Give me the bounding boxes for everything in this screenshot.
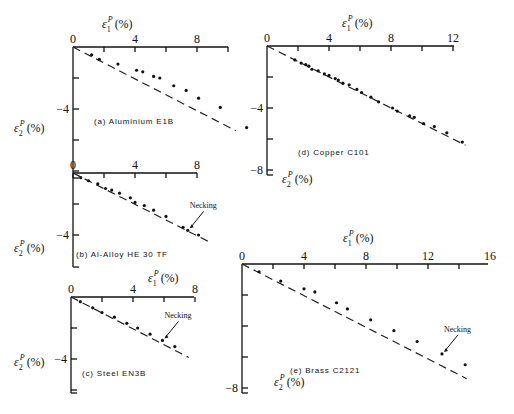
x-tick-label: 4	[301, 249, 307, 263]
panel-caption: (c) Steel EN3B	[82, 369, 146, 378]
data-point	[245, 126, 248, 129]
data-point	[164, 215, 167, 218]
fit-line	[242, 264, 467, 379]
y-tick-label: −4	[250, 101, 263, 115]
data-point	[91, 306, 94, 309]
x-tick-label: 0	[264, 31, 270, 45]
necking-arrow	[165, 321, 178, 337]
data-point	[152, 209, 155, 212]
fit-line	[267, 46, 465, 145]
y-tick-label: −8	[225, 381, 238, 395]
data-point	[317, 69, 320, 72]
data-point	[413, 116, 416, 119]
data-point	[197, 233, 200, 236]
x-tick-label: 12	[447, 31, 459, 45]
data-point	[133, 201, 136, 204]
data-point	[173, 345, 176, 348]
x-tick-label: 8	[194, 32, 200, 46]
data-point	[116, 62, 119, 65]
data-point	[445, 131, 448, 134]
x-tick-label: 0	[68, 282, 74, 296]
x-tick-label: 4	[132, 158, 138, 172]
y-tick-label: −4	[56, 102, 69, 116]
necking-annotation: Necking	[164, 311, 191, 320]
data-point	[408, 114, 411, 117]
data-point	[440, 352, 443, 355]
data-point	[87, 179, 90, 182]
data-point	[416, 340, 419, 343]
panel-caption: (d) Copper C101	[298, 148, 370, 157]
data-point	[181, 226, 184, 229]
data-point	[396, 110, 399, 113]
data-point	[360, 91, 363, 94]
data-point	[186, 229, 189, 232]
data-point	[327, 74, 330, 77]
x-tick-label: 4	[130, 282, 136, 296]
data-point	[334, 77, 337, 80]
data-point	[313, 290, 316, 293]
x-tick-label: 0	[70, 158, 76, 172]
strain-path-figure: 048−4(a) Aluminium E1Bε1P(%)ε2P(%)048−4(…	[0, 0, 514, 414]
x-axis-label: ε1P(%)	[102, 15, 133, 34]
data-point	[100, 311, 103, 314]
y-axis-label: ε2P(%)	[14, 119, 45, 138]
data-point	[113, 316, 116, 319]
data-point	[125, 322, 128, 325]
data-point	[141, 70, 144, 73]
data-point	[98, 58, 101, 61]
data-point	[185, 89, 188, 92]
necking-annotation: Necking	[444, 325, 471, 334]
data-point	[90, 53, 93, 56]
data-point	[304, 63, 307, 66]
panel-e: 0481216−8(e) Brass C2121ε1P(%)ε2P(%)Neck…	[225, 229, 496, 395]
data-point	[422, 122, 425, 125]
panel-b: 048−4(b) Al-Alloy HE 30 TFε2P(%)Necking	[14, 158, 217, 267]
data-point	[300, 61, 303, 64]
data-point	[310, 68, 313, 71]
data-point	[219, 106, 222, 109]
data-point	[377, 100, 380, 103]
data-point	[129, 196, 132, 199]
x-tick-label: 8	[388, 31, 394, 45]
data-point	[323, 72, 326, 75]
y-axis-label: ε2P(%)	[282, 170, 313, 189]
y-axis-label: ε2P(%)	[274, 373, 305, 392]
fit-line	[71, 297, 189, 357]
y-tick-label: −4	[56, 228, 69, 242]
data-point	[335, 301, 338, 304]
data-point	[118, 192, 121, 195]
panel-caption: (e) Brass C2121	[290, 366, 360, 375]
data-point	[135, 69, 138, 72]
x-tick-label: 8	[194, 158, 200, 172]
y-axis-label: ε2P(%)	[14, 239, 45, 258]
data-point	[279, 279, 282, 282]
data-point	[461, 141, 464, 144]
data-point	[369, 96, 372, 99]
data-point	[341, 82, 344, 85]
data-point	[346, 307, 349, 310]
panel-caption: (b) Al-Alloy HE 30 TF	[76, 250, 168, 259]
data-point	[302, 287, 305, 290]
data-point	[148, 333, 151, 336]
data-point	[348, 83, 351, 86]
data-point	[337, 79, 340, 82]
necking-arrow	[191, 211, 204, 227]
data-point	[392, 329, 395, 332]
data-point	[433, 125, 436, 128]
y-tick-label: −8	[250, 163, 263, 177]
panel-a: 048−4(a) Aluminium E1Bε1P(%)ε2P(%)	[14, 15, 248, 178]
data-point	[257, 270, 260, 273]
data-point	[293, 58, 296, 61]
data-point	[79, 176, 82, 179]
data-point	[355, 88, 358, 91]
data-point	[79, 300, 82, 303]
data-point	[143, 204, 146, 207]
data-point	[104, 187, 107, 190]
x-tick-label: 8	[363, 249, 369, 263]
data-point	[136, 326, 139, 329]
data-point	[158, 76, 161, 79]
x-axis-label: ε1P(%)	[148, 269, 179, 288]
y-axis-label: ε2P(%)	[14, 353, 45, 372]
data-point	[152, 75, 155, 78]
data-point	[197, 97, 200, 100]
